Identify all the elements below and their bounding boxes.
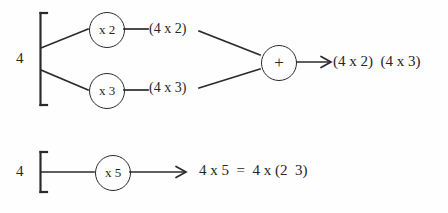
result-top: (4 x 2) (4 x 3) — [333, 54, 420, 69]
product-label-4x3: (4 x 3) — [149, 81, 186, 95]
node-times-3[interactable]: x 3 — [89, 73, 125, 109]
edge-product3-to-plus — [199, 69, 260, 88]
node-plus[interactable]: + — [261, 45, 297, 81]
arrowhead-top — [321, 57, 331, 68]
node-times-5[interactable]: x 5 — [95, 155, 131, 191]
node-times-2-label: x 2 — [90, 23, 124, 36]
edge-brace-to-times3 — [41, 70, 88, 90]
product-label-4x2: (4 x 2) — [149, 22, 186, 36]
connector-layer — [0, 0, 448, 213]
node-times-3-label: x 3 — [90, 84, 124, 97]
node-times-5-label: x 5 — [96, 166, 130, 179]
arrowhead-bottom — [176, 167, 186, 178]
edge-product2-to-plus — [199, 31, 260, 55]
operand-top: 4 — [16, 51, 24, 66]
plus-icon: + — [262, 54, 296, 71]
result-bottom: 4 x 5 = 4 x (2 3) — [199, 163, 307, 178]
edge-brace-to-times2 — [41, 29, 88, 48]
bracket-top — [41, 13, 48, 105]
bracket-bottom — [41, 152, 48, 192]
operand-bottom: 4 — [16, 164, 24, 179]
node-times-2[interactable]: x 2 — [89, 12, 125, 48]
diagram-canvas: 4 x 2 x 3 (4 x 2) (4 x 3) + (4 x 2) (4 x… — [0, 0, 448, 213]
